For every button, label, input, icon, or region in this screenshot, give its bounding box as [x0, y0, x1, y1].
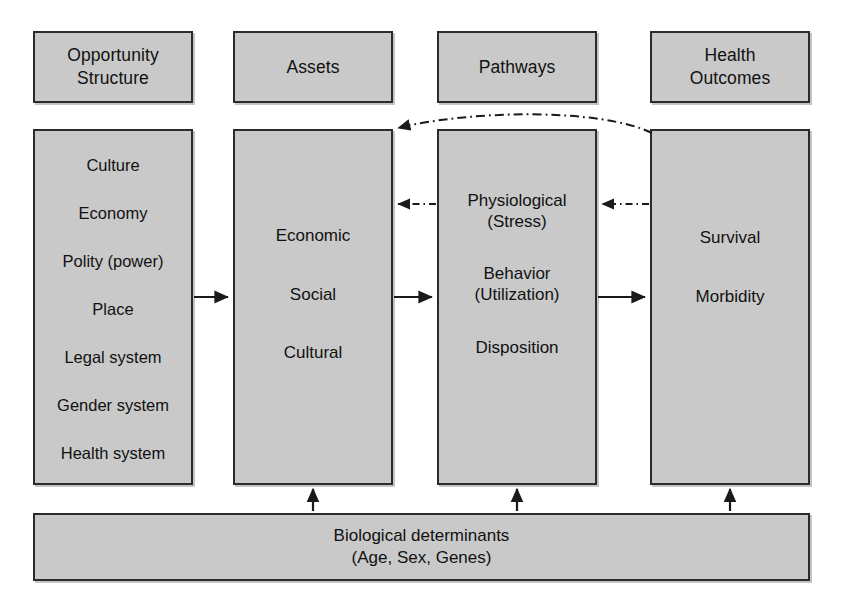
column-list-opportunity-structure: Culture Economy Polity (power) Place Leg…: [35, 141, 191, 477]
list-item: Gender system: [57, 395, 169, 415]
column-list-pathways: Physiological (Stress) Behavior (Utiliza…: [439, 191, 595, 359]
column-list-assets: Economic Social Cultural: [235, 226, 391, 364]
biological-determinants-label: Biological determinants (Age, Sex, Genes…: [334, 525, 510, 569]
framework-diagram: Opportunity Structure Assets Pathways He…: [0, 0, 844, 606]
header-label-health-outcomes: Health Outcomes: [690, 44, 771, 90]
list-item: Disposition: [475, 338, 558, 359]
list-item: Physiological (Stress): [467, 191, 566, 232]
column-box-health-outcomes: Survival Morbidity: [650, 129, 810, 485]
column-box-assets: Economic Social Cultural: [233, 129, 393, 485]
column-box-opportunity-structure: Culture Economy Polity (power) Place Leg…: [33, 129, 193, 485]
list-item: Morbidity: [696, 287, 765, 308]
header-box-health-outcomes: Health Outcomes: [650, 31, 810, 103]
list-item: Cultural: [284, 343, 343, 364]
list-item: Economic: [276, 226, 351, 247]
header-box-assets: Assets: [233, 31, 393, 103]
list-item: Culture: [86, 155, 139, 175]
header-box-pathways: Pathways: [437, 31, 597, 103]
header-box-opportunity-structure: Opportunity Structure: [33, 31, 193, 103]
list-item: Social: [290, 285, 336, 306]
header-label-opportunity-structure: Opportunity Structure: [67, 44, 159, 90]
column-box-pathways: Physiological (Stress) Behavior (Utiliza…: [437, 129, 597, 485]
column-list-health-outcomes: Survival Morbidity: [652, 228, 808, 307]
list-item: Place: [92, 299, 133, 319]
header-label-assets: Assets: [286, 56, 339, 79]
header-label-pathways: Pathways: [479, 56, 556, 79]
list-item: Survival: [700, 228, 760, 249]
list-item: Legal system: [64, 347, 161, 367]
list-item: Health system: [61, 443, 166, 463]
list-item: Economy: [79, 203, 148, 223]
list-item: Polity (power): [63, 251, 164, 271]
list-item: Behavior (Utilization): [474, 264, 559, 305]
biological-determinants-band: Biological determinants (Age, Sex, Genes…: [33, 513, 810, 581]
